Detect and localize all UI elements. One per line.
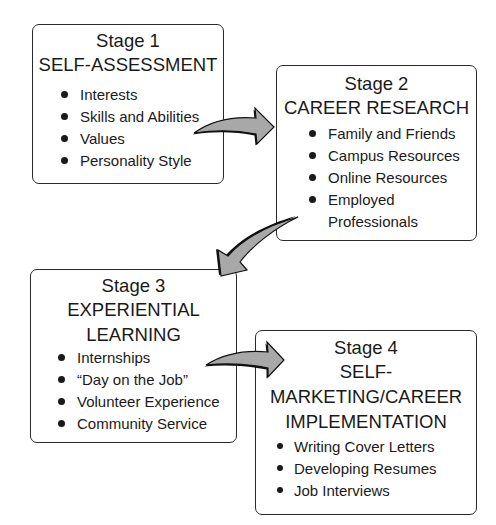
stage-4-title-line-1: SELF-	[256, 359, 476, 384]
list-item: Values	[54, 128, 223, 150]
bullet-icon	[61, 135, 68, 142]
list-item: Volunteer Experience	[51, 391, 236, 413]
stage-3-label: Stage 3	[31, 274, 236, 297]
list-item: Internships	[51, 347, 236, 369]
bullet-icon	[58, 354, 65, 361]
bullet-icon	[277, 487, 283, 493]
list-item: Family and Friends	[302, 123, 476, 145]
list-item-text: Employed	[328, 191, 395, 208]
stage-4-title-line-3: IMPLEMENTATION	[256, 409, 476, 434]
bullet-icon	[277, 443, 283, 449]
bullet-icon	[309, 152, 316, 159]
list-item-text-continued: Professionals	[328, 213, 418, 230]
list-item-text: “Day on the Job”	[77, 371, 188, 388]
list-item-text: Volunteer Experience	[77, 393, 220, 410]
list-item-text: Writing Cover Letters	[294, 438, 435, 455]
bullet-icon	[61, 157, 68, 164]
bullet-icon	[61, 91, 68, 98]
list-item-text: Campus Resources	[328, 147, 460, 164]
list-item: Online Resources	[302, 167, 476, 189]
stage-3-box: Stage 3 EXPERIENTIAL LEARNING Internship…	[30, 269, 237, 443]
bullet-icon	[58, 376, 65, 383]
list-item-text: Job Interviews	[294, 482, 390, 499]
list-item-text: Internships	[77, 349, 150, 366]
bullet-icon	[58, 420, 65, 427]
stage-2-list: Family and Friends Campus Resources Onli…	[302, 123, 476, 233]
list-item: Writing Cover Letters	[271, 436, 476, 458]
list-item-text: Values	[80, 130, 125, 147]
list-item: Interests	[54, 84, 223, 106]
list-item-text: Developing Resumes	[294, 460, 437, 477]
stage-2-label: Stage 2	[277, 72, 476, 95]
bullet-icon	[61, 113, 68, 120]
list-item: Community Service	[51, 413, 236, 435]
bullet-icon	[309, 174, 316, 181]
list-item: Personality Style	[54, 150, 223, 172]
list-item-text: Family and Friends	[328, 125, 456, 142]
stage-3-title-line-2: LEARNING	[31, 322, 236, 347]
stage-4-box: Stage 4 SELF- MARKETING/CAREER IMPLEMENT…	[255, 330, 477, 515]
bullet-icon	[58, 398, 65, 405]
list-item: “Day on the Job”	[51, 369, 236, 391]
stage-2-box: Stage 2 CAREER RESEARCH Family and Frien…	[276, 65, 477, 241]
stage-1-list: Interests Skills and Abilities Values Pe…	[54, 84, 223, 172]
list-item: Skills and Abilities	[54, 106, 223, 128]
bullet-icon	[309, 130, 316, 137]
stage-4-title-line-2: MARKETING/CAREER	[256, 384, 476, 409]
stage-4-list: Writing Cover Letters Developing Resumes…	[271, 436, 476, 502]
list-item-text: Skills and Abilities	[80, 108, 199, 125]
bullet-icon	[309, 196, 316, 203]
stage-4-label: Stage 4	[256, 336, 476, 359]
list-item: Campus Resources	[302, 145, 476, 167]
list-item-text: Community Service	[77, 415, 207, 432]
list-item-text: Personality Style	[80, 152, 192, 169]
list-item-text: Online Resources	[328, 169, 447, 186]
list-item: EmployedProfessionals	[302, 189, 476, 233]
list-item: Job Interviews	[271, 480, 476, 502]
stage-2-title: CAREER RESEARCH	[277, 95, 476, 120]
stage-1-title: SELF-ASSESSMENT	[33, 52, 223, 77]
list-item: Developing Resumes	[271, 458, 476, 480]
stage-1-label: Stage 1	[33, 29, 223, 52]
stage-1-box: Stage 1 SELF-ASSESSMENT Interests Skills…	[32, 24, 224, 184]
bullet-icon	[277, 465, 283, 471]
stage-3-title-line-1: EXPERIENTIAL	[31, 297, 236, 322]
list-item-text: Interests	[80, 86, 138, 103]
stage-3-list: Internships “Day on the Job” Volunteer E…	[51, 347, 236, 435]
